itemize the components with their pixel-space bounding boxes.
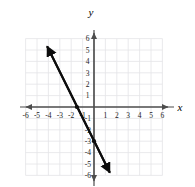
x-tick-label: -6 xyxy=(22,111,28,120)
y-tick-label: 2 xyxy=(86,80,90,89)
x-tick-label: 5 xyxy=(149,111,153,120)
x-tick-label: -3 xyxy=(57,111,63,120)
x-tick-label: -5 xyxy=(34,111,40,120)
y-tick-label: 5 xyxy=(86,46,90,55)
y-tick-label: 3 xyxy=(86,69,90,78)
x-tick-label: 3 xyxy=(126,111,130,120)
x-tick-label: 1 xyxy=(104,111,108,120)
y-tick-label: 4 xyxy=(86,57,90,66)
y-axis-label: y xyxy=(88,6,94,18)
y-tick-label: -6 xyxy=(85,171,91,180)
y-tick-label: 1 xyxy=(86,91,90,100)
y-tick-label: 6 xyxy=(86,34,90,43)
coordinate-plane-svg: -6 -5 -4 -3 -2 -1 1 2 3 4 5 6 6 5 4 3 2 … xyxy=(0,0,195,187)
y-tick-label: -5 xyxy=(85,160,91,169)
x-axis-label: x xyxy=(177,101,183,113)
x-tick-label: -2 xyxy=(68,111,74,120)
x-tick-label: 2 xyxy=(115,111,119,120)
y-tick-label: -3 xyxy=(85,137,91,146)
x-tick-label: 6 xyxy=(161,111,165,120)
point-y-intercept xyxy=(92,139,96,143)
y-tick-label: -4 xyxy=(85,148,91,157)
coordinate-plane-figure: -6 -5 -4 -3 -2 -1 1 2 3 4 5 6 6 5 4 3 2 … xyxy=(0,0,195,187)
x-tick-label: -4 xyxy=(45,111,51,120)
x-tick-label: 4 xyxy=(138,111,142,120)
point-x-intercept xyxy=(75,105,79,109)
figure-background xyxy=(0,0,195,187)
